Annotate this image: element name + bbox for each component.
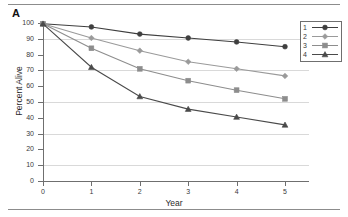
legend[interactable]: 1234 (300, 21, 342, 62)
legend-item-label: 3 (303, 41, 311, 50)
series-layer (0, 0, 348, 217)
series-line (43, 24, 285, 47)
diamond-marker (322, 34, 328, 40)
square-marker (89, 46, 94, 51)
triangle-marker (137, 94, 143, 99)
legend-sample-diamond-icon (311, 32, 339, 41)
plot-area: 0102030405060708090100 012345 Year Perce… (0, 0, 348, 217)
legend-marker-square-icon (320, 41, 330, 50)
diamond-marker (89, 35, 95, 41)
triangle-marker (322, 52, 328, 57)
series-line (43, 24, 285, 76)
series-1 (41, 21, 288, 49)
figure-panel: A 0102030405060708090100 012345 Year Per… (0, 0, 348, 217)
legend-sample-square-icon (311, 41, 339, 50)
diamond-marker (282, 73, 288, 79)
diamond-marker (137, 48, 143, 54)
legend-marker-diamond-icon (320, 32, 330, 41)
legend-item-1[interactable]: 1 (303, 23, 339, 32)
y-axis-label: Percent Alive (14, 36, 24, 146)
legend-item-label: 1 (303, 23, 311, 32)
series-4 (40, 21, 288, 127)
legend-sample-circle-icon (311, 23, 339, 32)
square-marker (137, 66, 142, 71)
diamond-marker (234, 66, 240, 72)
legend-item-4[interactable]: 4 (303, 50, 339, 59)
diamond-marker (185, 59, 191, 65)
square-marker (186, 78, 191, 83)
square-marker (283, 96, 288, 101)
legend-sample-triangle-icon (311, 50, 339, 59)
legend-item-label: 4 (303, 50, 311, 59)
square-marker (323, 43, 328, 48)
series-2 (40, 21, 288, 79)
circle-marker (89, 25, 94, 30)
legend-item-label: 2 (303, 32, 311, 41)
series-line (43, 24, 285, 99)
legend-item-2[interactable]: 2 (303, 32, 339, 41)
series-3 (41, 21, 288, 101)
circle-marker (234, 40, 239, 45)
circle-marker (186, 36, 191, 41)
circle-marker (323, 25, 328, 30)
legend-item-3[interactable]: 3 (303, 41, 339, 50)
square-marker (234, 88, 239, 93)
legend-marker-circle-icon (320, 23, 330, 32)
x-axis-label: Year (0, 198, 348, 208)
circle-marker (137, 32, 142, 37)
circle-marker (283, 44, 288, 49)
legend-marker-triangle-icon (320, 50, 330, 59)
